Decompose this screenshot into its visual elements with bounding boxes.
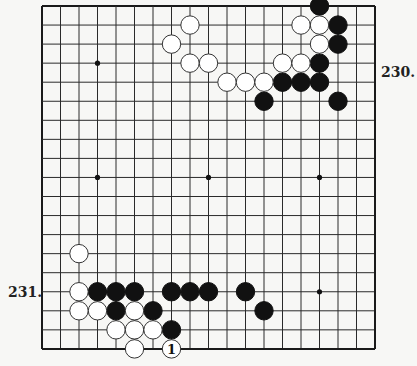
star-point: [317, 175, 322, 180]
black-stone: [310, 73, 328, 91]
white-stone: [125, 302, 143, 320]
black-stone: [236, 283, 254, 301]
white-stone: [125, 321, 143, 339]
white-stone: [199, 54, 217, 72]
white-stone: [255, 73, 273, 91]
black-stone: [292, 73, 310, 91]
problem-label-230: 230.: [381, 64, 415, 80]
white-stone: [181, 16, 199, 34]
star-point: [206, 175, 211, 180]
black-stone: [162, 283, 180, 301]
black-stone: [273, 73, 291, 91]
problem-label-231: 231.: [8, 284, 42, 300]
white-stone: [236, 73, 254, 91]
white-stone: [107, 321, 125, 339]
star-point: [95, 175, 100, 180]
black-stone: [255, 92, 273, 110]
go-board-diagram: 1: [0, 0, 417, 366]
black-stone: [329, 92, 347, 110]
black-stone: [162, 321, 180, 339]
white-stone: [292, 16, 310, 34]
white-stone: [310, 16, 328, 34]
white-stone: [181, 54, 199, 72]
white-stone: [88, 302, 106, 320]
black-stone: [181, 283, 199, 301]
black-stone: [310, 54, 328, 72]
black-stone: [88, 283, 106, 301]
black-stone: [329, 16, 347, 34]
white-stone: [70, 302, 88, 320]
star-point: [95, 61, 100, 66]
black-stone: [144, 302, 162, 320]
star-point: [317, 289, 322, 294]
black-stone: [125, 283, 143, 301]
white-stone: [125, 340, 143, 358]
black-stone: [255, 302, 273, 320]
white-stone: [70, 283, 88, 301]
black-stone: [310, 0, 328, 15]
black-stone: [199, 283, 217, 301]
black-stone: [107, 302, 125, 320]
white-stone: [144, 321, 162, 339]
black-stone: [107, 283, 125, 301]
white-stone: [292, 54, 310, 72]
white-stone: [310, 35, 328, 53]
white-stone: [273, 54, 291, 72]
white-stone: [70, 244, 88, 262]
white-stone: [218, 73, 236, 91]
white-stone: [162, 35, 180, 53]
black-stone: [329, 35, 347, 53]
move-number: 1: [167, 342, 176, 357]
